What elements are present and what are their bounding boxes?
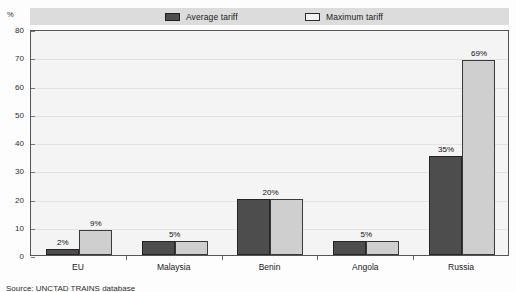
y-axis-tick-label: 20 (0, 195, 24, 204)
bar-value-label: 5% (361, 230, 373, 239)
bar-group: 2%9% (31, 31, 127, 255)
bar-maximum-tariff (462, 60, 495, 255)
y-axis-tick-label: 70 (0, 54, 24, 63)
bar-pair: 5% (333, 241, 399, 255)
x-tick-mark (126, 256, 127, 260)
plot-area: 2%9%5%20%5%35%69% (30, 30, 509, 256)
x-axis-category-label: Malaysia (157, 262, 191, 272)
legend-swatch-light-icon (305, 13, 320, 21)
bar-maximum-tariff (270, 199, 303, 256)
bar-average-tariff (237, 199, 270, 256)
legend-label-maximum-tariff: Maximum tariff (326, 12, 383, 22)
y-tick-mark (31, 257, 35, 258)
x-axis-category-label: Angola (352, 262, 378, 272)
bar-average-tariff (142, 241, 175, 255)
bar-group: 35%69% (414, 31, 510, 255)
bar-value-label-average: 35% (438, 145, 454, 154)
chart-legend: Average tariff Maximum tariff (30, 8, 509, 25)
x-tick-mark (413, 256, 414, 260)
bar-maximum-tariff (366, 241, 399, 255)
legend-entry-average-tariff: Average tariff (165, 8, 238, 25)
bar-pair: 20% (237, 199, 303, 256)
x-axis-category-label: Benin (259, 262, 281, 272)
bar-group: 5% (127, 31, 223, 255)
bar-average-tariff (333, 241, 366, 255)
bar-value-label-maximum: 69% (471, 49, 487, 58)
y-axis-tick-label: 40 (0, 139, 24, 148)
bar-value-label: 5% (169, 230, 181, 239)
x-tick-mark (317, 256, 318, 260)
bar-value-label-average: 2% (57, 238, 69, 247)
y-axis-unit-label: % (7, 10, 14, 19)
y-axis-tick-label: 50 (0, 110, 24, 119)
y-axis-tick-label: 30 (0, 167, 24, 176)
legend-entry-maximum-tariff: Maximum tariff (305, 8, 383, 25)
bar-maximum-tariff (79, 230, 112, 255)
x-axis-category-label: Russia (448, 262, 474, 272)
bar-pair: 35%69% (429, 60, 495, 255)
bar-pair: 5% (142, 241, 208, 255)
tariff-bar-chart: % Average tariff Maximum tariff 01020304… (0, 0, 516, 292)
bar-group: 20% (223, 31, 319, 255)
bar-pair: 2%9% (46, 230, 112, 255)
y-axis-tick-label: 80 (0, 26, 24, 35)
y-axis-tick-label: 0 (0, 252, 24, 261)
bar-average-tariff (429, 156, 462, 255)
bar-value-label-maximum: 9% (90, 219, 102, 228)
x-tick-mark (222, 256, 223, 260)
y-axis-tick-label: 60 (0, 82, 24, 91)
bar-group: 5% (318, 31, 414, 255)
bar-maximum-tariff (175, 241, 208, 255)
legend-label-average-tariff: Average tariff (186, 12, 238, 22)
y-axis-tick-label: 10 (0, 223, 24, 232)
legend-swatch-dark-icon (165, 13, 180, 21)
bar-average-tariff (46, 249, 79, 255)
plot-inner: 2%9%5%20%5%35%69% (31, 31, 508, 255)
bar-value-label: 20% (262, 188, 278, 197)
bars-layer: 2%9%5%20%5%35%69% (31, 31, 508, 255)
x-axis-category-label: EU (72, 262, 84, 272)
source-note: Source: UNCTAD TRAINS database (6, 284, 135, 292)
